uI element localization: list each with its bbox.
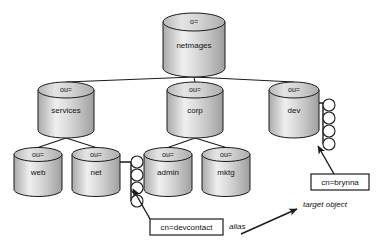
leaf-object-circle[interactable] <box>131 156 143 168</box>
leaf-object-circle[interactable] <box>323 125 335 137</box>
callout-label-devcontact: cn=devcontact <box>161 223 214 232</box>
node-name-label-mktg: mktg <box>217 168 234 177</box>
node-net[interactable]: ou=net <box>72 148 120 197</box>
node-name-label-services: services <box>51 106 80 115</box>
leaf-object-circle[interactable] <box>323 99 335 111</box>
node-root[interactable]: o=netmages <box>163 13 225 77</box>
edge-root-to-corp <box>194 77 195 82</box>
node-name-label-net: net <box>90 168 102 177</box>
edge-services-to-web <box>38 138 66 148</box>
node-type-label-services: ou= <box>60 86 72 93</box>
edge-services-to-net <box>66 138 96 148</box>
node-type-label-web: ou= <box>32 151 44 158</box>
node-type-label-corp: ou= <box>189 86 201 93</box>
node-type-label-root: o= <box>190 18 198 25</box>
relation-arrow-alias-to-target <box>241 209 297 234</box>
edge-corp-to-mktg <box>195 138 226 148</box>
node-name-label-web: web <box>30 168 46 177</box>
leaf-object-circle[interactable] <box>323 112 335 124</box>
node-admin[interactable]: ou=admin <box>144 148 192 197</box>
node-name-label-admin: admin <box>157 168 179 177</box>
node-name-label-corp: corp <box>187 106 203 115</box>
node-services[interactable]: ou=services <box>38 82 94 138</box>
diagram-canvas: o=netmagesou=servicesou=corpou=devou=web… <box>0 0 384 251</box>
node-dev[interactable]: ou=dev <box>269 82 319 138</box>
annotations-layer: aliastarget object <box>229 200 348 234</box>
callout-brynna: cn=brynna <box>311 146 369 190</box>
node-corp[interactable]: ou=corp <box>167 82 223 138</box>
leaf-object-circle[interactable] <box>131 169 143 181</box>
callout-label-brynna: cn=brynna <box>321 178 359 187</box>
callout-arrow-brynna <box>318 146 334 174</box>
nodes-layer: o=netmagesou=servicesou=corpou=devou=web… <box>14 13 319 197</box>
leaf-object-circle[interactable] <box>323 138 335 150</box>
node-type-label-net: ou= <box>90 151 102 158</box>
node-web[interactable]: ou=web <box>14 148 62 197</box>
annotation-target-object: target object <box>303 200 348 209</box>
edge-root-to-dev <box>194 77 294 82</box>
node-name-label-root: netmages <box>176 41 211 50</box>
leaf-chain-dev-leaves <box>319 99 335 150</box>
node-mktg[interactable]: ou=mktg <box>202 148 250 197</box>
edge-root-to-services <box>66 77 194 82</box>
leaf-chain-stem <box>120 162 131 201</box>
node-name-label-dev: dev <box>288 106 301 115</box>
node-type-label-admin: ou= <box>162 151 174 158</box>
node-type-label-dev: ou= <box>288 86 300 93</box>
leaf-object-circle[interactable] <box>131 182 143 194</box>
ldap-directory-diagram: o=netmagesou=servicesou=corpou=devou=web… <box>0 0 384 251</box>
leaf-chain-stem <box>319 103 323 144</box>
edge-corp-to-admin <box>168 138 195 148</box>
annotation-alias: alias <box>229 222 245 231</box>
node-type-label-mktg: ou= <box>220 151 232 158</box>
